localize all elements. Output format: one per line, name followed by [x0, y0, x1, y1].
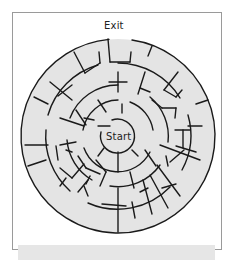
circular-maze — [0, 0, 235, 260]
start-label: Start — [106, 131, 131, 142]
exit-label: Exit — [104, 20, 124, 31]
